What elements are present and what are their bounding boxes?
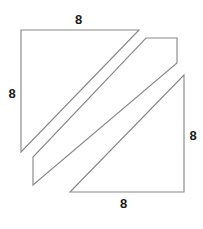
dimension-label-right: 8	[185, 129, 201, 142]
dimension-label-bottom-text: 8	[120, 197, 127, 210]
dimension-label-left: 8	[4, 87, 20, 100]
dissection-diagram-svg	[0, 0, 203, 229]
dimension-label-top-text: 8	[75, 13, 82, 26]
dimension-label-top: 8	[0, 13, 203, 26]
dimension-label-bottom: 8	[0, 197, 203, 210]
geometry-figure: 8 8 8 8	[0, 0, 203, 229]
